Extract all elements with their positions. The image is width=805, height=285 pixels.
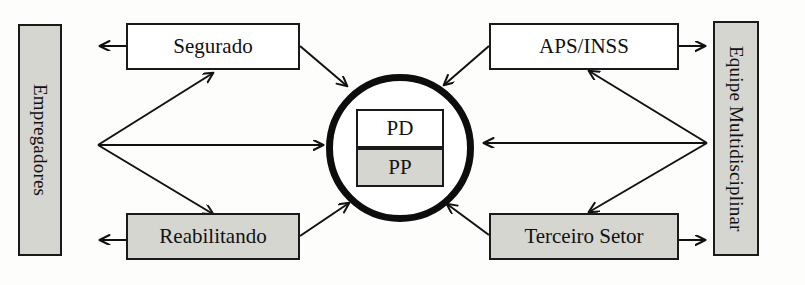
edge-terceiro-circle [447, 204, 489, 235]
edge-empregadores-segurado [98, 73, 213, 145]
edge-segurado-circle [300, 46, 347, 86]
node-segurado-label: Segurado [173, 35, 252, 57]
node-terceiro-setor[interactable]: Terceiro Setor [489, 213, 679, 260]
edge-reabilitando-circle [300, 203, 349, 236]
node-reabilitando[interactable]: Reabilitando [126, 213, 300, 260]
node-aps-inss-label: APS/INSS [539, 35, 629, 57]
edge-empregadores-reabilitando [98, 145, 213, 214]
diagram-canvas: Empregadores Equipe Multidisciplinar Seg… [0, 0, 805, 285]
node-pp[interactable]: PP [356, 148, 444, 187]
node-equipe-multidisciplinar-label: Equipe Multidisciplinar [726, 46, 746, 232]
node-terceiro-setor-label: Terceiro Setor [524, 225, 643, 247]
edge-aps-circle [444, 46, 489, 85]
node-pd-label: PD [387, 116, 414, 141]
node-empregadores[interactable]: Empregadores [18, 24, 62, 256]
node-equipe-multidisciplinar[interactable]: Equipe Multidisciplinar [713, 21, 759, 256]
node-segurado[interactable]: Segurado [126, 23, 300, 70]
node-pp-label: PP [388, 155, 411, 180]
edge-equipe-terceiro [589, 143, 707, 212]
node-reabilitando-label: Reabilitando [159, 225, 266, 247]
node-central-circle[interactable]: PD PP [326, 74, 474, 222]
node-pd[interactable]: PD [356, 109, 444, 148]
edge-equipe-aps [589, 71, 707, 143]
node-aps-inss[interactable]: APS/INSS [489, 23, 679, 70]
node-empregadores-label: Empregadores [30, 84, 50, 196]
